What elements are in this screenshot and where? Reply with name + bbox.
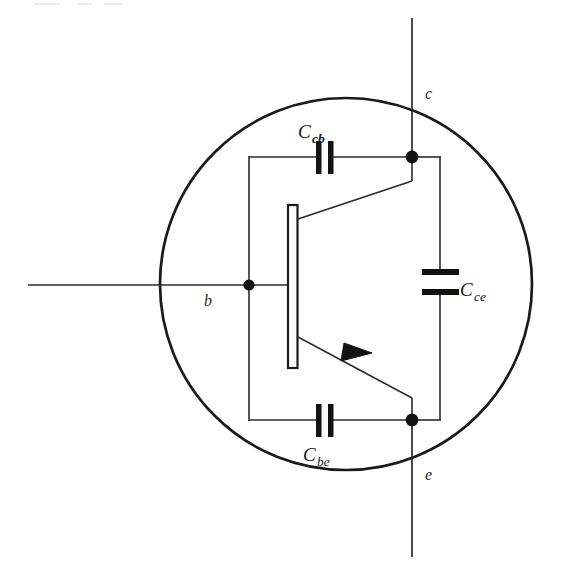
transistor-base-bar [288, 205, 298, 368]
circuit-canvas: C cb C ce C be b c e [0, 0, 563, 576]
transistor-collector-slant [298, 181, 412, 219]
collector-node-dot [406, 151, 419, 164]
scan-artifact-1 [34, 3, 60, 5]
terminal-label-base: b [204, 292, 212, 309]
cce-plate-top [422, 269, 459, 275]
terminal-label-emitter: e [425, 466, 432, 483]
cbe-plate-right [328, 404, 334, 437]
base-node-dot [243, 279, 254, 290]
emitter-arrowhead-icon [341, 343, 372, 361]
ccb-label-subscript: cb [312, 131, 325, 146]
emitter-node-dot [406, 414, 419, 427]
cce-label: C ce [460, 279, 486, 304]
ccb-plate-right [328, 141, 334, 174]
enclosure-circle [160, 98, 532, 470]
cce-label-subscript: ce [474, 289, 486, 304]
cbe-plate-left [316, 404, 322, 437]
terminal-label-collector: c [425, 85, 432, 102]
circuit-figure: C cb C ce C be b c e [0, 0, 563, 576]
cbe-label-base: C [303, 444, 316, 465]
cce-label-base: C [460, 279, 473, 300]
transistor-emitter-slant [298, 337, 412, 398]
cce-plate-bottom [422, 289, 459, 295]
ccb-label: C cb [298, 121, 325, 146]
scan-artifact-3 [104, 3, 122, 5]
cbe-label-subscript: be [317, 454, 330, 469]
ccb-label-base: C [298, 121, 311, 142]
scan-artifact-2 [78, 3, 92, 5]
